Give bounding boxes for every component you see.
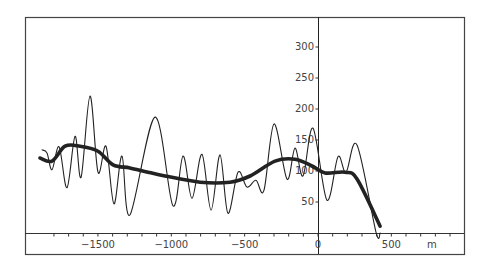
x-tick-label: 0 — [315, 239, 321, 250]
raw-profile-line — [42, 96, 380, 239]
smoothed-profile-line — [40, 145, 380, 226]
y-tick-label: 250 — [295, 72, 314, 83]
x-tick-label: −1500 — [81, 239, 115, 250]
profile-chart: −1500−1000−5000500 50100150200250300 m — [0, 0, 488, 269]
x-tick-label: −1000 — [154, 239, 188, 250]
y-axis-tick-labels: 50100150200250300 — [295, 41, 314, 207]
x-axis-unit-label: m — [427, 239, 437, 250]
y-tick-label: 300 — [295, 41, 314, 52]
x-tick-label: −500 — [231, 239, 258, 250]
y-tick-label: 150 — [295, 134, 314, 145]
y-tick-label: 200 — [295, 103, 314, 114]
x-axis-tick-labels: −1500−1000−5000500 — [81, 239, 401, 250]
chart-frame — [26, 18, 465, 255]
x-tick-label: 500 — [382, 239, 401, 250]
y-tick-label: 50 — [301, 196, 314, 207]
